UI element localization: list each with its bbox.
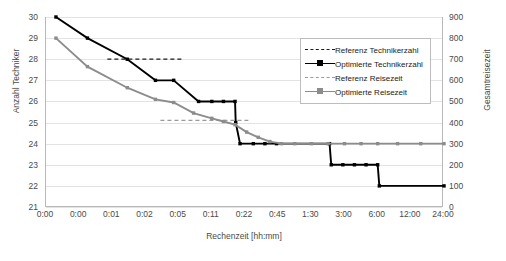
- y-axis-left-tick-label: 23: [8, 161, 38, 170]
- data-point-marker: [419, 142, 422, 145]
- data-point-marker: [197, 100, 200, 103]
- data-point-marker: [280, 142, 283, 145]
- data-point-marker: [154, 98, 157, 101]
- data-point-marker: [172, 101, 175, 104]
- data-point-marker: [343, 142, 346, 145]
- x-axis-tick-label: 24:00: [423, 210, 463, 219]
- data-point-marker: [54, 36, 57, 39]
- data-point-marker: [268, 140, 271, 143]
- data-point-marker: [172, 79, 175, 82]
- chart-container: Anzahl Techniker Gesamtreisezeit Rechenz…: [0, 0, 506, 261]
- data-point-marker: [252, 142, 255, 145]
- y-axis-left-tick-label: 28: [8, 55, 38, 64]
- y-axis-right-tick-label: 700: [449, 55, 483, 64]
- y-axis-left-tick-label: 25: [8, 119, 38, 128]
- legend-label: Referenz Reisezeit: [335, 74, 403, 83]
- y-axis-left-tick-label: 26: [8, 97, 38, 106]
- data-point-marker: [364, 163, 367, 166]
- data-point-marker: [126, 58, 129, 61]
- legend-swatch-solid-gray-icon: [305, 86, 335, 98]
- data-point-marker: [233, 123, 236, 126]
- y-axis-right-tick-label: 100: [449, 182, 483, 191]
- legend-swatch-dashed-black-icon: [305, 44, 335, 56]
- data-point-marker: [293, 142, 296, 145]
- data-point-marker: [210, 100, 213, 103]
- legend-item-referenz-reisezeit[interactable]: Referenz Reisezeit: [305, 71, 426, 85]
- data-point-marker: [233, 100, 236, 103]
- data-point-marker: [310, 142, 313, 145]
- legend-label: Optimierte Technikerzahl: [335, 60, 423, 69]
- y-axis-right-tick-label: 200: [449, 161, 483, 170]
- data-point-marker: [353, 163, 356, 166]
- y-axis-right-tick-label: 300: [449, 140, 483, 149]
- gridline: [46, 207, 442, 208]
- y-axis-left-tick-label: 29: [8, 34, 38, 43]
- legend-swatch-dashed-gray-icon: [305, 72, 335, 84]
- y-axis-right-title: Gesamtreisezeit: [482, 25, 492, 135]
- y-axis-right-tick-label: 800: [449, 34, 483, 43]
- legend-swatch-solid-black-icon: [305, 58, 335, 70]
- data-point-marker: [442, 184, 445, 187]
- data-point-marker: [245, 130, 248, 133]
- y-axis-right-tick-label: 900: [449, 13, 483, 22]
- legend-item-referenz-technikerzahl[interactable]: Referenz Technikerzahl: [305, 43, 426, 57]
- data-point-marker: [341, 163, 344, 166]
- y-axis-right-tick-label: 600: [449, 76, 483, 85]
- y-axis-right-tick-label: 400: [449, 119, 483, 128]
- data-point-marker: [192, 111, 195, 114]
- data-point-marker: [330, 163, 333, 166]
- x-axis-title: Rechenzeit [hh:mm]: [45, 231, 443, 241]
- data-point-marker: [257, 136, 260, 139]
- data-point-marker: [154, 79, 157, 82]
- data-point-marker: [54, 15, 57, 18]
- legend-label: Optimierte Reisezeit: [335, 88, 407, 97]
- data-point-marker: [126, 86, 129, 89]
- data-point-marker: [210, 117, 213, 120]
- y-axis-left-tick-label: 24: [8, 140, 38, 149]
- data-point-marker: [376, 142, 379, 145]
- data-point-marker: [376, 163, 379, 166]
- legend: Referenz Technikerzahl Optimierte Techni…: [300, 38, 431, 104]
- y-axis-left-tick-label: 30: [8, 13, 38, 22]
- y-axis-left-tick-label: 22: [8, 182, 38, 191]
- y-axis-right-tick-label: 500: [449, 97, 483, 106]
- data-point-marker: [238, 142, 241, 145]
- data-point-marker: [396, 142, 399, 145]
- y-axis-left-tick-label: 27: [8, 76, 38, 85]
- data-point-marker: [326, 142, 329, 145]
- data-point-marker: [222, 100, 225, 103]
- data-point-marker: [442, 142, 445, 145]
- legend-label: Referenz Technikerzahl: [335, 46, 418, 55]
- data-point-marker: [263, 142, 266, 145]
- data-point-marker: [86, 36, 89, 39]
- legend-item-optimierte-reisezeit[interactable]: Optimierte Reisezeit: [305, 85, 426, 99]
- data-point-marker: [378, 184, 381, 187]
- data-point-marker: [86, 65, 89, 68]
- legend-item-optimierte-technikerzahl[interactable]: Optimierte Technikerzahl: [305, 57, 426, 71]
- data-point-marker: [359, 142, 362, 145]
- data-point-marker: [222, 120, 225, 123]
